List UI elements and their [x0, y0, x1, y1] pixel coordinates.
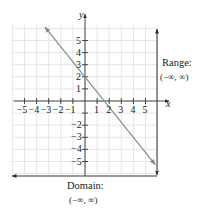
domain-value: (−∞, ∞) [69, 195, 97, 205]
y-tick-label: −2 [71, 119, 82, 130]
y-tick-label: 1 [76, 83, 81, 94]
x-tick-label: −4 [29, 104, 40, 115]
x-tick-label: 3 [118, 104, 123, 115]
domain-title: Domain: [67, 180, 104, 191]
x-tick-label: 4 [130, 104, 135, 115]
y-tick-label: 3 [76, 59, 81, 70]
range-title: Range: [162, 57, 192, 68]
x-tick-label: −5 [17, 104, 28, 115]
x-axis-label: x [166, 98, 170, 109]
x-tick-label: −3 [41, 104, 52, 115]
y-tick-label: 2 [76, 71, 81, 82]
y-tick-label: 5 [76, 35, 81, 46]
x-tick-label: −1 [65, 104, 76, 115]
y-tick-label: −5 [71, 156, 82, 167]
range-value: (−∞, ∞) [160, 72, 188, 82]
x-tick-label: 2 [106, 104, 111, 115]
x-tick-label: 5 [143, 104, 148, 115]
y-axis-label: y [79, 9, 83, 20]
x-tick-label: −2 [53, 104, 64, 115]
y-tick-label: 4 [76, 47, 81, 58]
x-tick-label: 1 [94, 104, 99, 115]
data-line [45, 27, 155, 164]
y-tick-label: −4 [71, 143, 82, 154]
y-tick-label: −3 [71, 131, 82, 142]
